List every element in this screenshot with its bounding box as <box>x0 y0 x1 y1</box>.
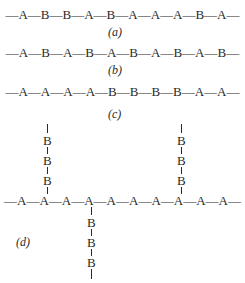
bond <box>181 187 182 194</box>
branch-atom: B <box>43 154 52 167</box>
label-c: (c) <box>108 107 121 122</box>
branch-atom: B <box>87 216 96 229</box>
label-a: (a) <box>108 25 122 40</box>
chain-a: —A—B—B—A—B—A—A—A—B—A— <box>0 7 245 23</box>
bond <box>91 269 92 279</box>
bond <box>47 187 48 194</box>
bond <box>91 207 92 215</box>
branch-atom: B <box>87 236 96 249</box>
branch-atom: B <box>177 154 186 167</box>
branch-atom: B <box>43 174 52 187</box>
chain-c: —A—A—A—A—B—B—B—B—A—A— <box>0 84 245 100</box>
label-b: (b) <box>108 63 122 78</box>
chain-b: —A—B—A—B—A—B—A—B—A—B— <box>0 45 245 61</box>
chain-d: —A—A—A—A—A—A—A—A—A—A— <box>0 193 245 209</box>
label-d: (d) <box>16 235 30 250</box>
branch-atom: B <box>43 134 52 147</box>
branch-atom: B <box>177 134 186 147</box>
bond <box>47 124 48 133</box>
branch-atom: B <box>177 174 186 187</box>
bond <box>181 124 182 133</box>
branch-atom: B <box>87 256 96 269</box>
